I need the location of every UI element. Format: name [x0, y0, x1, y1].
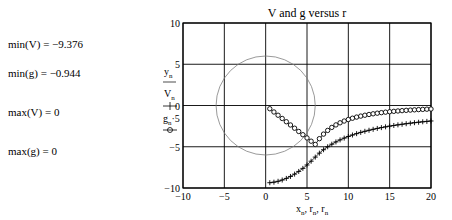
x-axis-label: xn, rn, rn — [296, 203, 329, 217]
v-g-chart: V and g versus r −10−505101520−10−50510 … — [0, 0, 452, 220]
svg-text:15: 15 — [385, 191, 395, 202]
svg-text:20: 20 — [426, 191, 436, 202]
svg-text:Vn: Vn — [164, 88, 175, 102]
y-axis-label: yn Vn gn·5 — [163, 66, 180, 133]
svg-text:xn, rn, rn: xn, rn, rn — [296, 203, 329, 217]
svg-text:−5: −5 — [169, 142, 180, 153]
plot-series — [216, 56, 433, 185]
svg-text:−10: −10 — [164, 183, 180, 194]
svg-text:0: 0 — [263, 191, 268, 202]
svg-text:5: 5 — [305, 191, 310, 202]
svg-text:10: 10 — [170, 18, 180, 29]
svg-text:gn·5: gn·5 — [163, 113, 180, 127]
svg-text:yn: yn — [164, 66, 173, 80]
circle-marker-icon — [163, 128, 177, 133]
svg-text:−5: −5 — [219, 191, 230, 202]
svg-text:5: 5 — [175, 59, 180, 70]
svg-text:10: 10 — [343, 191, 353, 202]
chart-title: V and g versus r — [268, 6, 346, 20]
